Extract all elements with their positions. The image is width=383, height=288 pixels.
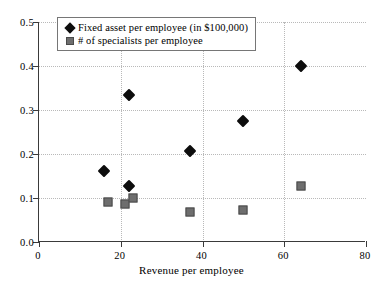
x-axis-tick-label: 0 — [18, 250, 58, 261]
x-axis-tick-label: 20 — [100, 250, 140, 261]
data-point-square — [129, 194, 138, 203]
scatter-chart: Fixed asset per employee (in $100,000) #… — [0, 0, 383, 288]
legend-item-label: Fixed asset per employee (in $100,000) — [78, 22, 248, 33]
data-point-diamond — [123, 179, 136, 192]
y-axis-tick-label: 0.0 — [0, 237, 34, 248]
legend-item: Fixed asset per employee (in $100,000) — [63, 21, 248, 34]
data-point-square — [296, 181, 305, 190]
legend-item-label: # of specialists per employee — [78, 35, 203, 46]
y-axis-tick-label: 0.3 — [0, 105, 34, 116]
data-point-diamond — [123, 88, 136, 101]
x-axis-tick-label: 40 — [182, 250, 222, 261]
data-point-square — [104, 198, 113, 207]
y-axis-tick-label: 0.2 — [0, 149, 34, 160]
y-axis-tick-label: 0.4 — [0, 61, 34, 72]
data-point-square — [239, 205, 248, 214]
data-point-diamond — [294, 60, 307, 73]
gridline-vertical — [121, 22, 122, 242]
x-axis-tick — [203, 241, 204, 247]
data-point-square — [186, 207, 195, 216]
x-axis-tick — [366, 241, 367, 247]
square-marker-icon — [63, 37, 76, 45]
x-axis-tick — [284, 241, 285, 247]
gridline-vertical — [203, 22, 204, 242]
x-axis-tick-label: 60 — [263, 250, 303, 261]
x-axis-tick — [121, 241, 122, 247]
x-axis-title: Revenue per employee — [0, 264, 383, 276]
plot-area — [38, 22, 365, 242]
legend-item: # of specialists per employee — [63, 34, 248, 47]
y-axis-tick-label: 0.5 — [0, 17, 34, 28]
diamond-marker-icon — [63, 24, 76, 32]
gridline-vertical — [284, 22, 285, 242]
x-axis-tick-label: 80 — [345, 250, 383, 261]
x-axis-tick — [39, 241, 40, 247]
data-point-diamond — [184, 145, 197, 158]
y-axis-tick-label: 0.1 — [0, 193, 34, 204]
data-point-diamond — [98, 164, 111, 177]
chart-legend: Fixed asset per employee (in $100,000) #… — [57, 17, 256, 51]
data-point-diamond — [237, 115, 250, 128]
